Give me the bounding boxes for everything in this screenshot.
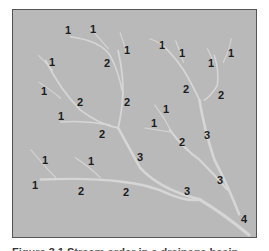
stream-order-label: 1 bbox=[58, 111, 64, 122]
stream-order-label: 3 bbox=[204, 130, 210, 141]
stream-order-label: 1 bbox=[179, 48, 185, 59]
stream-order-label: 2 bbox=[183, 84, 189, 95]
stream-order-label: 2 bbox=[77, 97, 83, 108]
stream-order-label: 1 bbox=[32, 180, 38, 191]
figure-caption: Figure 3.1 Stream order in a drainage ba… bbox=[12, 246, 238, 251]
stream-order-label: 2 bbox=[179, 137, 185, 148]
stream-order-label: 3 bbox=[217, 175, 223, 186]
stream-order-label: 1 bbox=[151, 118, 157, 129]
stream-order-label: 2 bbox=[123, 187, 129, 198]
stream-order-label: 1 bbox=[228, 48, 234, 59]
stream-order-label: 1 bbox=[49, 57, 55, 68]
stream-order-label: 1 bbox=[124, 45, 130, 56]
stream-network bbox=[13, 10, 256, 237]
stream-order-label: 3 bbox=[184, 186, 190, 197]
stream-order-figure bbox=[12, 9, 257, 238]
stream-order-label: 1 bbox=[42, 155, 48, 166]
stream-order-label: 1 bbox=[159, 40, 165, 51]
stream-order-label: 2 bbox=[99, 129, 105, 140]
stream-order-label: 1 bbox=[41, 86, 47, 97]
stream-order-label: 2 bbox=[104, 58, 110, 69]
stream-order-label: 4 bbox=[241, 214, 247, 225]
stream-order-label: 1 bbox=[65, 25, 71, 36]
stream-order-label: 3 bbox=[137, 152, 143, 163]
stream-order-label: 2 bbox=[218, 90, 224, 101]
stream-order-label: 2 bbox=[124, 97, 130, 108]
stream-order-label: 1 bbox=[208, 58, 214, 69]
stream-order-label: 1 bbox=[163, 104, 169, 115]
stream-order-label: 1 bbox=[88, 156, 94, 167]
stream-order-label: 2 bbox=[78, 186, 84, 197]
stream-order-label: 1 bbox=[90, 24, 96, 35]
